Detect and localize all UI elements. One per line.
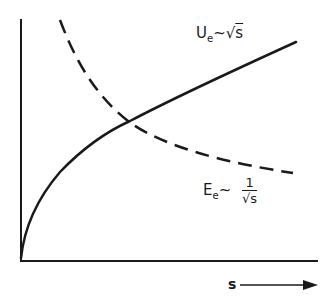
u-curve-label: Ue~√s [196,26,243,41]
e-label-denominator: √s [242,191,257,205]
u-curve-sqrt [21,42,296,258]
e-label-den-arg: s [250,191,257,206]
e-label-numerator: 1 [242,176,257,191]
u-label-sub: e [207,33,213,44]
e-label-rel: ~ [219,181,232,199]
plot-area [0,0,333,298]
u-label-radical: √ [226,24,236,42]
u-label-rel: ~ [213,24,226,42]
e-label-sub: e [212,190,218,201]
e-label-fraction: 1 √s [242,176,257,205]
u-label-main: U [196,24,207,42]
x-arrow-head-icon [303,280,318,290]
e-curve-label: Ee~ 1 √s [203,176,257,205]
u-label-arg: s [235,24,243,42]
x-axis-label: s [228,277,236,291]
